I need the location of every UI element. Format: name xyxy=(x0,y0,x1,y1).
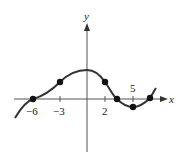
x-tick-label: −3 xyxy=(53,105,65,117)
function-graph: x y −6 −3 2 5 xyxy=(0,0,180,161)
data-point xyxy=(30,96,36,102)
data-point xyxy=(114,96,120,102)
data-point xyxy=(102,79,108,85)
y-axis-arrow-icon xyxy=(84,23,90,31)
x-axis-label: x xyxy=(168,93,174,105)
x-tick-label: 2 xyxy=(102,105,108,117)
x-tick-label: 5 xyxy=(130,82,136,94)
data-point xyxy=(147,95,153,101)
x-tick-label: −6 xyxy=(26,105,38,117)
data-point xyxy=(130,104,136,110)
data-point xyxy=(57,79,63,85)
y-axis-label: y xyxy=(83,10,89,22)
x-axis-arrow-icon xyxy=(160,96,168,102)
